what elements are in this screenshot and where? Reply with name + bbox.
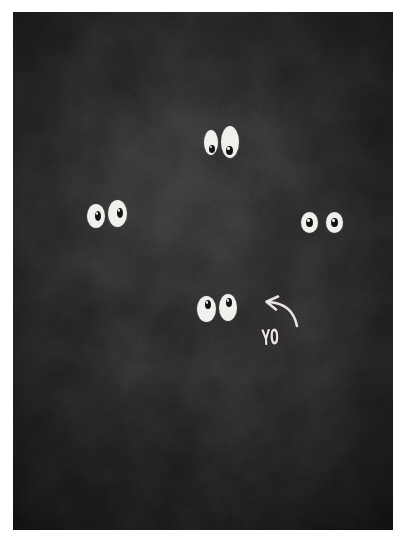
pupil [331,218,338,227]
pupil-glint [206,301,208,304]
yo-text: YO [261,324,279,350]
pupil-glint [227,299,229,302]
pupil-glint [332,219,334,222]
pupil [226,146,233,155]
film-grain-texture [13,12,393,530]
eye-left [204,130,218,155]
eye-right [221,126,239,158]
pupil [209,145,215,153]
eye-right [326,212,343,233]
yo-callout: YO [256,295,308,353]
eye-left [197,296,216,322]
pupil [95,211,101,221]
pupil [226,298,232,307]
pupil-glint [227,147,229,150]
eye-right [219,294,237,321]
vignette-overlay [13,12,393,530]
eye-left [301,212,318,233]
eye-left [87,204,105,228]
image-canvas: YO [0,0,407,547]
pupil-glint [118,209,120,212]
pupil [306,218,313,227]
dark-photo-panel: YO [13,12,393,530]
eye-right [108,200,127,227]
pupil-glint [307,219,309,222]
pupil [117,208,123,218]
pupil-glint [96,212,98,215]
pupil-glint [210,146,212,148]
pupil [205,300,211,309]
